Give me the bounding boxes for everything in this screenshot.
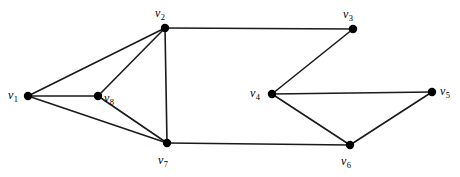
- graph-vertex-v5: [428, 88, 436, 96]
- vertex-label-subscript: 2: [161, 12, 165, 22]
- vertex-label-letter: v: [341, 154, 346, 168]
- vertex-label-v3: v3: [343, 8, 353, 20]
- vertex-label-subscript: 5: [446, 90, 450, 100]
- vertex-label-subscript: 8: [110, 97, 114, 107]
- graph-edge: [28, 96, 167, 143]
- vertex-layer: [24, 24, 436, 149]
- vertex-label-v7: v7: [158, 154, 168, 166]
- graph-vertex-v2: [161, 24, 169, 32]
- vertex-label-v1: v1: [8, 89, 18, 101]
- graph-edge: [28, 28, 165, 96]
- vertex-label-subscript: 7: [164, 159, 168, 169]
- graph-edge: [272, 92, 432, 94]
- vertex-label-letter: v: [104, 91, 109, 105]
- vertex-label-letter: v: [158, 153, 163, 167]
- vertex-label-letter: v: [155, 6, 160, 20]
- graph-vertex-v6: [346, 141, 354, 149]
- vertex-label-subscript: 6: [347, 160, 351, 170]
- vertex-label-subscript: 4: [256, 92, 260, 102]
- vertex-label-letter: v: [343, 7, 348, 21]
- vertex-label-v6: v6: [341, 155, 351, 167]
- edge-layer: [28, 28, 432, 145]
- graph-edge: [167, 143, 350, 145]
- graph-edge: [165, 28, 167, 143]
- graph-edge: [272, 94, 350, 145]
- graph-vertex-v8: [94, 92, 102, 100]
- vertex-label-v4: v4: [250, 87, 260, 99]
- vertex-label-letter: v: [250, 86, 255, 100]
- vertex-label-v5: v5: [440, 85, 450, 97]
- vertex-label-v8: v8: [104, 92, 114, 104]
- graph-edge: [272, 29, 353, 94]
- graph-vertex-v7: [163, 139, 171, 147]
- vertex-label-subscript: 1: [14, 94, 18, 104]
- vertex-label-subscript: 3: [349, 13, 353, 23]
- graph-vertex-v4: [268, 90, 276, 98]
- vertex-label-letter: v: [440, 84, 445, 98]
- graph-vertex-v1: [24, 92, 32, 100]
- graph-vertex-v3: [349, 25, 357, 33]
- graph-canvas: [0, 0, 460, 177]
- graph-edge: [98, 28, 165, 96]
- graph-figure: v1v2v3v4v5v6v7v8: [0, 0, 460, 177]
- vertex-label-letter: v: [8, 88, 13, 102]
- vertex-label-v2: v2: [155, 7, 165, 19]
- graph-edge: [350, 92, 432, 145]
- graph-edge: [165, 28, 353, 29]
